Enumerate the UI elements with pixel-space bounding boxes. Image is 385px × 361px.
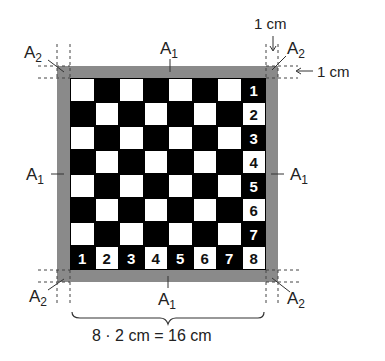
label-a2-top-right: A2 — [287, 40, 305, 60]
label-a1-bottom: A1 — [158, 291, 176, 311]
label-a2-top-left: A2 — [24, 44, 42, 64]
dim-bottom-formula: 8 · 2 cm = 16 cm — [92, 327, 212, 345]
label-a1-left: A1 — [26, 166, 44, 186]
dim-top-1cm: 1 cm — [254, 15, 287, 32]
label-a1-top: A1 — [160, 40, 178, 60]
label-a1-right: A1 — [290, 166, 308, 186]
label-a2-bottom-left: A2 — [29, 288, 47, 308]
annotation-lines — [0, 0, 385, 361]
label-a2-bottom-right: A2 — [287, 290, 305, 310]
dim-right-1cm: 1 cm — [317, 63, 350, 80]
